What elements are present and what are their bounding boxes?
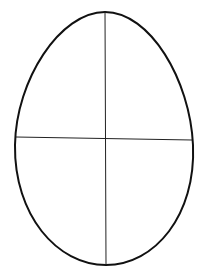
horizontal-axis-line: [16, 137, 192, 140]
egg-diagram: [0, 0, 206, 280]
vertical-axis-line: [105, 12, 106, 265]
